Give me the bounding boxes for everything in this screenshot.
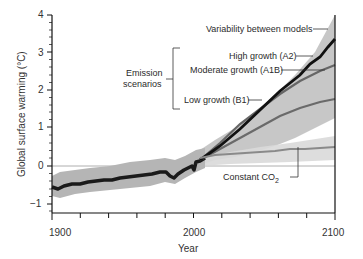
- y-tick-3: 3: [38, 47, 44, 58]
- x-tick-1900: 1900: [49, 227, 71, 238]
- label-a2: High growth (A2): [229, 51, 297, 61]
- y-major-ticks: [47, 15, 52, 204]
- y-tick-2: 2: [38, 84, 44, 95]
- x-tick-2100: 2100: [322, 227, 344, 238]
- co2-subscript: 2: [275, 177, 279, 184]
- chart-plot: [0, 0, 363, 259]
- y-tick-1: 1: [38, 121, 44, 132]
- x-ticks: [52, 213, 335, 220]
- y-tick-4: 4: [38, 9, 44, 20]
- y-axis-label: Global surface warming (°C): [16, 51, 27, 177]
- x-tick-2000: 2000: [183, 227, 205, 238]
- y-tick-neg1: −1: [30, 198, 41, 209]
- constant-co2-text: Constant CO: [223, 172, 275, 182]
- x-axis-label: Year: [178, 243, 198, 254]
- label-constant-co2: Constant CO2: [223, 172, 279, 186]
- label-emission-2: scenarios: [123, 79, 162, 89]
- y-tick-0: 0: [38, 160, 44, 171]
- label-variability: Variability between models: [206, 24, 312, 34]
- label-a1b: Moderate growth (A1B): [190, 65, 283, 75]
- label-emission-1: Emission: [126, 68, 163, 78]
- label-b1: Low growth (B1): [184, 95, 250, 105]
